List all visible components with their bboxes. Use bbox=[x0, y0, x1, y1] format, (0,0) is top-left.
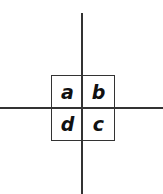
quadrant-label-bottom-left: d bbox=[52, 108, 83, 140]
quadrant-label-bottom-right: c bbox=[83, 108, 114, 140]
quadrant-label-top-right: b bbox=[83, 76, 114, 108]
quadrant-label-top-left: a bbox=[52, 76, 83, 108]
